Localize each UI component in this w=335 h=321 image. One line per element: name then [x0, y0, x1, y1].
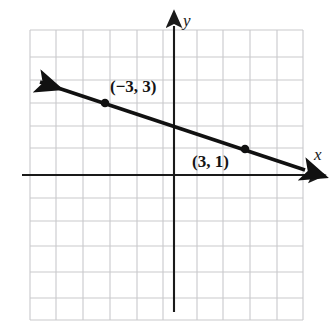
point-label-minus3-3: (−3, 3) [110, 78, 157, 95]
point-label-3-1: (3, 1) [192, 153, 229, 170]
data-point-a [101, 99, 110, 108]
x-axis-label: x [314, 146, 322, 163]
y-axis-label: y [183, 12, 191, 29]
data-point-b [241, 145, 250, 154]
graph-canvas [0, 0, 335, 321]
coordinate-plane-figure: y x (−3, 3) (3, 1) [0, 0, 335, 321]
